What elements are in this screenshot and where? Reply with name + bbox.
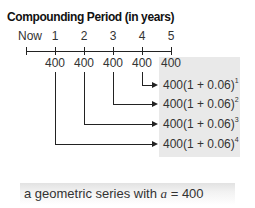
- payment-value: 400: [161, 56, 181, 70]
- tick-mark: [84, 47, 85, 55]
- tick-mark: [142, 47, 143, 55]
- connector-line: [84, 124, 152, 125]
- tick-mark: [26, 47, 27, 55]
- payment-value: 400: [45, 56, 65, 70]
- tick-label-now: Now: [18, 29, 42, 43]
- payment-value: 400: [74, 56, 94, 70]
- tick-mark: [55, 47, 56, 55]
- connector-line: [113, 104, 152, 105]
- connector-line: [142, 85, 152, 86]
- arrow-right-icon: [152, 141, 158, 147]
- tick-label-4: 4: [139, 29, 146, 43]
- caption: a geometric series with a = 400: [24, 186, 204, 202]
- compound-expression: 400(1 + 0.06)2: [163, 96, 239, 111]
- connector-line: [142, 72, 143, 85]
- payment-value: 400: [103, 56, 123, 70]
- compound-expression: 400(1 + 0.06)4: [163, 136, 239, 151]
- connector-line: [55, 72, 56, 144]
- tick-mark: [171, 47, 172, 55]
- tick-label-5: 5: [168, 29, 175, 43]
- connector-line: [84, 72, 85, 124]
- arrow-right-icon: [152, 101, 158, 107]
- connector-line: [113, 72, 114, 104]
- timeline-axis: [26, 51, 172, 52]
- tick-label-3: 3: [110, 29, 117, 43]
- diagram-title: Compounding Period (in years): [7, 10, 174, 24]
- connector-line: [55, 144, 152, 145]
- tick-label-2: 2: [81, 29, 88, 43]
- tick-mark: [113, 47, 114, 55]
- arrow-right-icon: [152, 121, 158, 127]
- payment-value: 400: [132, 56, 152, 70]
- compound-expression: 400(1 + 0.06)3: [163, 116, 239, 131]
- compound-expression: 400(1 + 0.06)1: [163, 77, 239, 92]
- arrow-right-icon: [152, 82, 158, 88]
- tick-label-1: 1: [52, 29, 59, 43]
